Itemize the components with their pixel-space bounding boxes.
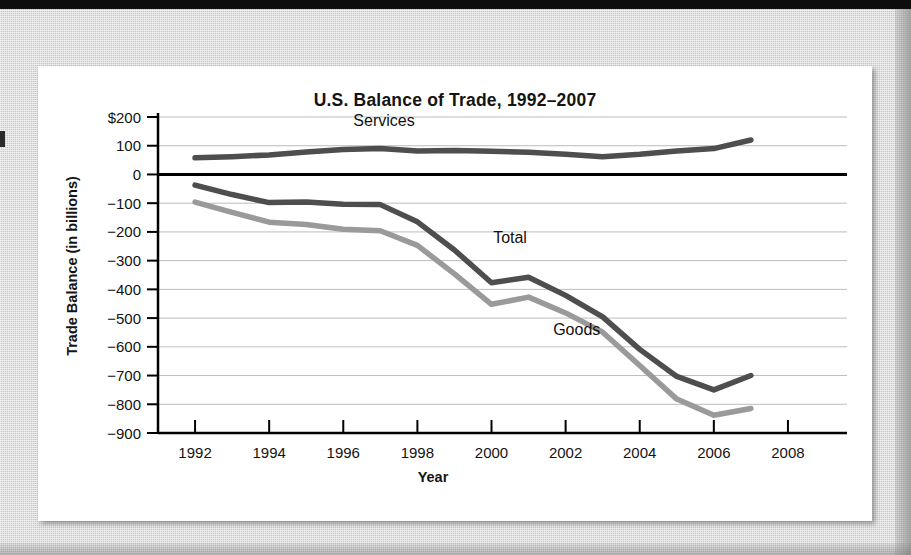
- chart-figure: U.S. Balance of Trade, 1992–2007 Trade B…: [38, 66, 872, 521]
- y-tick-label: −300: [107, 252, 141, 269]
- x-tick-label: 2004: [623, 444, 656, 461]
- x-tick-label: 1996: [327, 444, 360, 461]
- top-black-bar: [0, 0, 911, 9]
- x-tick-label: 1992: [178, 444, 211, 461]
- y-axis-ticks: $2001000−100−200−300−400−500−600−700−800…: [107, 109, 158, 442]
- y-tick-label: 0: [133, 166, 141, 183]
- x-axis-ticks: 199219941996199820002002200420062008: [178, 420, 804, 461]
- axes-group: [158, 113, 847, 433]
- y-tick-label: −500: [107, 310, 141, 327]
- x-tick-label: 1998: [401, 444, 434, 461]
- plot-svg: $2001000−100−200−300−400−500−600−700−800…: [38, 66, 872, 521]
- y-tick-label: −400: [107, 281, 141, 298]
- series-line-services: [195, 140, 751, 158]
- x-tick-label: 1994: [252, 444, 285, 461]
- x-tick-label: 2002: [549, 444, 582, 461]
- series-line-goods: [195, 202, 751, 415]
- left-edge-mark: [0, 131, 5, 147]
- y-tick-label: −800: [107, 396, 141, 413]
- screenshot-page: U.S. Balance of Trade, 1992–2007 Trade B…: [0, 0, 911, 555]
- data-series-group: [195, 140, 751, 415]
- series-label-total: Total: [493, 229, 527, 246]
- gridlines-group: [158, 117, 847, 433]
- x-tick-label: 2008: [771, 444, 804, 461]
- x-tick-label: 2006: [697, 444, 730, 461]
- y-tick-label: −900: [107, 425, 141, 442]
- x-tick-label: 2000: [475, 444, 508, 461]
- series-label-services: Services: [353, 112, 414, 129]
- y-tick-label: $200: [108, 109, 141, 126]
- y-tick-label: −200: [107, 223, 141, 240]
- y-tick-label: −700: [107, 367, 141, 384]
- y-tick-label: −100: [107, 195, 141, 212]
- right-edge-shading: [895, 9, 911, 555]
- y-tick-label: 100: [116, 137, 141, 154]
- bottom-edge-shading: [0, 543, 911, 555]
- y-tick-label: −600: [107, 338, 141, 355]
- series-label-goods: Goods: [553, 321, 600, 338]
